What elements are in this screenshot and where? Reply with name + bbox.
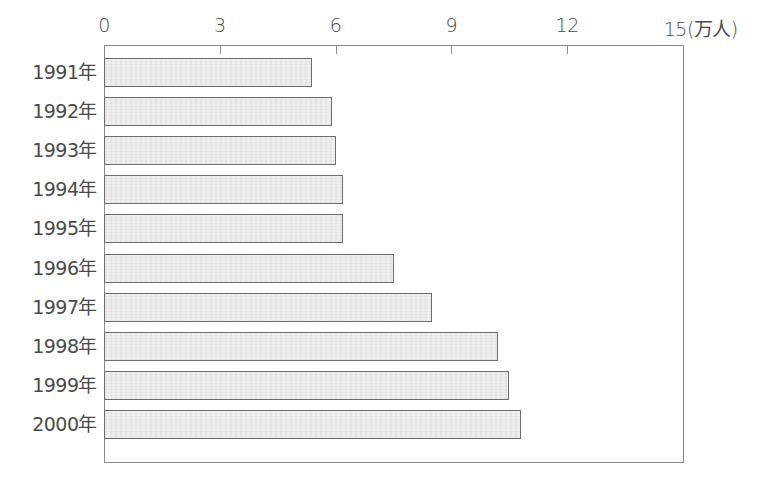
category-label: 1996年 — [32, 254, 97, 283]
category-label: 1994年 — [32, 175, 97, 204]
x-tick-label: 3 — [214, 14, 226, 36]
x-tick-mark — [220, 45, 221, 54]
category-label: 1997年 — [32, 293, 97, 322]
bar — [104, 175, 343, 204]
bar — [104, 136, 336, 165]
category-label: 1993年 — [32, 136, 97, 165]
category-label: 1991年 — [32, 58, 97, 87]
category-label: 1998年 — [32, 332, 97, 361]
category-label: 2000年 — [32, 410, 97, 439]
x-tick-label: 15(万人) — [664, 14, 738, 41]
category-label: 1999年 — [32, 371, 97, 400]
bar — [104, 58, 312, 87]
bar — [104, 214, 343, 243]
bar — [104, 332, 498, 361]
x-tick-label: 0 — [98, 14, 110, 36]
bar — [104, 410, 521, 439]
bar — [104, 97, 332, 126]
x-tick-mark — [567, 45, 568, 54]
x-tick-label: 9 — [446, 14, 458, 36]
category-label: 1992年 — [32, 97, 97, 126]
x-tick-label: 12 — [556, 14, 579, 36]
bar — [104, 293, 432, 322]
x-tick-label: 6 — [330, 14, 342, 36]
category-label: 1995年 — [32, 214, 97, 243]
bar — [104, 371, 509, 400]
bar — [104, 254, 394, 283]
horizontal-bar-chart: 03691215(万人) 1991年1992年1993年1994年1995年19… — [0, 0, 761, 483]
x-tick-mark — [336, 45, 337, 54]
x-tick-mark — [451, 45, 452, 54]
